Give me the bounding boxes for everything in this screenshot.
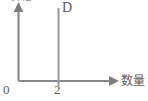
x-axis-tick-label-2: 2 (54, 83, 61, 96)
y-axis-arrow-icon (14, 2, 24, 12)
x-axis-arrow-icon (109, 76, 119, 86)
demand-curve-figure: 价格 D 0 2 数量 (0, 0, 148, 101)
demand-curve-label: D (62, 1, 72, 15)
origin-label: 0 (3, 83, 10, 96)
y-axis-label: 价格 (10, 0, 32, 2)
x-axis-label: 数量 (121, 75, 145, 87)
